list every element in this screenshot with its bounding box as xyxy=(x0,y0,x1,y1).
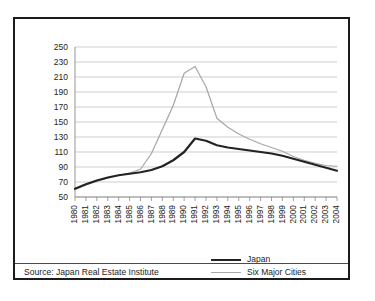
y-axis-tick-label: 110 xyxy=(54,147,68,157)
y-axis-tick-label: 170 xyxy=(54,102,68,112)
x-axis-tick-label: 1995 xyxy=(233,205,243,224)
data-series xyxy=(75,67,337,190)
x-axis-tick-label: 1982 xyxy=(91,205,101,224)
figure-root: 507090110130150170190210230250 198019811… xyxy=(0,0,375,301)
x-axis-tick-label: 2000 xyxy=(288,205,298,224)
gridlines xyxy=(75,47,337,197)
series-line-six-major-cities xyxy=(75,67,337,190)
y-axis-tick-label: 250 xyxy=(54,42,68,52)
x-axis-tick-labels: 1980198119821983198419851986198719881989… xyxy=(69,205,341,224)
x-axis-tick-label: 1998 xyxy=(266,205,276,224)
plot-area: 507090110130150170190210230250 198019811… xyxy=(15,19,348,278)
y-axis-tick-labels: 507090110130150170190210230250 xyxy=(54,42,68,202)
x-axis-tick-label: 1985 xyxy=(124,205,134,224)
x-axis-tick-label: 1996 xyxy=(244,205,254,224)
y-axis-tick-label: 210 xyxy=(54,72,68,82)
x-axis-tick-label: 1980 xyxy=(69,205,79,224)
x-axis-tick-label: 1997 xyxy=(255,205,265,224)
x-axis-tick-label: 1988 xyxy=(157,205,167,224)
x-axis-tick-label: 2002 xyxy=(309,205,319,224)
legend-swatch-japan xyxy=(211,259,241,261)
x-axis-tick-label: 1986 xyxy=(135,205,145,224)
series-line-japan xyxy=(75,139,337,189)
x-axis-tick-label: 1992 xyxy=(200,205,210,224)
line-chart: 507090110130150170190210230250 198019811… xyxy=(15,19,348,278)
chart-frame: 507090110130150170190210230250 198019811… xyxy=(13,17,350,280)
x-axis-tick-label: 1990 xyxy=(178,205,188,224)
y-axis-tick-label: 150 xyxy=(54,117,68,127)
y-axis-tick-label: 50 xyxy=(59,192,69,202)
source-divider xyxy=(15,263,348,264)
x-axis-tick-label: 1991 xyxy=(189,205,199,224)
y-axis-tick-label: 190 xyxy=(54,87,68,97)
y-axis-tick-label: 130 xyxy=(54,132,68,142)
y-axis-tick-label: 90 xyxy=(59,162,69,172)
x-axis-tick-label: 1999 xyxy=(277,205,287,224)
x-axis-tick-label: 1981 xyxy=(80,205,90,224)
x-axis-tick-label: 1983 xyxy=(102,205,112,224)
x-axis-tick-label: 1989 xyxy=(167,205,177,224)
legend-item-six-major-cities: Six Major Cities xyxy=(211,267,341,278)
x-axis-tick-label: 1987 xyxy=(146,205,156,224)
x-axis-tick-label: 2003 xyxy=(320,205,330,224)
x-axis-tick-label: 1984 xyxy=(113,205,123,224)
y-axis-tick-label: 230 xyxy=(54,57,68,67)
x-axis-tick-marks xyxy=(75,197,337,201)
chart-legend: Japan Six Major Cities xyxy=(211,254,341,280)
x-axis-tick-label: 1994 xyxy=(222,205,232,224)
y-axis-tick-label: 70 xyxy=(59,177,69,187)
x-axis-tick-label: 1993 xyxy=(211,205,221,224)
legend-swatch-six-major-cities xyxy=(211,272,241,273)
source-note: Source: Japan Real Estate Institute xyxy=(24,267,159,277)
legend-label-six-major-cities: Six Major Cities xyxy=(247,267,306,278)
x-axis-tick-label: 2004 xyxy=(331,205,341,224)
x-axis-tick-label: 2001 xyxy=(298,205,308,224)
